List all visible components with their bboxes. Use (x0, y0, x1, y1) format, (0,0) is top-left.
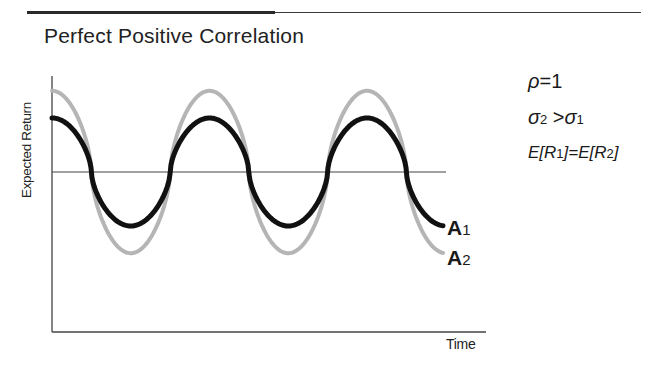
annotation-expected-returns: E[R1]=E[R2] (528, 143, 619, 163)
legend-a2: A2 (447, 246, 471, 270)
plot-area (0, 0, 668, 376)
annotation-sigma: σ2 >σ1 (528, 106, 584, 129)
annotation-rho: ρ=1 (528, 70, 562, 93)
legend-a1: A1 (447, 216, 471, 240)
